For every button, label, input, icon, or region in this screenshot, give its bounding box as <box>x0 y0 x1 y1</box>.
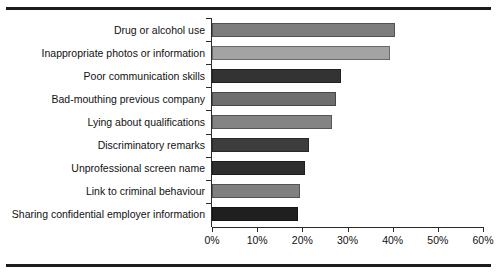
bar <box>212 184 300 198</box>
x-axis-tick <box>393 227 394 232</box>
bar <box>212 92 336 106</box>
y-axis-tick <box>206 64 211 65</box>
bar <box>212 115 332 129</box>
bar <box>212 23 395 37</box>
x-axis-tick-label: 60% <box>463 234 497 246</box>
x-axis-tick <box>438 227 439 232</box>
category-label: Poor communication skills <box>84 69 205 83</box>
x-axis-tick <box>302 227 303 232</box>
bar-chart-figure: Drug or alcohol useInappropriate photos … <box>0 0 497 275</box>
y-axis-tick <box>206 134 211 135</box>
category-axis-labels: Drug or alcohol useInappropriate photos … <box>0 18 209 226</box>
x-axis-tick-label: 10% <box>237 234 277 246</box>
x-axis-tick-label: 20% <box>282 234 322 246</box>
category-label: Bad-mouthing previous company <box>51 92 205 106</box>
top-horizontal-rule <box>6 7 491 10</box>
category-label: Unprofessional screen name <box>71 161 205 175</box>
x-axis-tick <box>257 227 258 232</box>
x-axis-tick-label: 40% <box>373 234 413 246</box>
bar <box>212 46 390 60</box>
plot-area: Drug or alcohol useInappropriate photos … <box>0 18 497 258</box>
bar <box>212 138 309 152</box>
y-axis-tick <box>206 180 211 181</box>
category-label: Link to criminal behaviour <box>86 184 205 198</box>
bar <box>212 69 341 83</box>
y-axis-tick <box>206 18 211 19</box>
x-axis-tick-label: 30% <box>328 234 368 246</box>
y-axis-tick <box>206 110 211 111</box>
category-label: Sharing confidential employer informatio… <box>12 207 205 221</box>
category-label: Lying about qualifications <box>87 115 205 129</box>
x-axis-tick <box>483 227 484 232</box>
category-label: Drug or alcohol use <box>114 23 205 37</box>
y-axis-tick <box>206 87 211 88</box>
y-axis-tick <box>206 203 211 204</box>
y-axis-tick <box>206 41 211 42</box>
x-axis-tick <box>212 227 213 232</box>
bottom-horizontal-rule <box>6 264 491 267</box>
category-label: Discriminatory remarks <box>98 138 205 152</box>
x-axis-tick-label: 0% <box>192 234 232 246</box>
bar <box>212 161 305 175</box>
x-axis-tick-label: 50% <box>418 234 458 246</box>
x-axis-tick <box>348 227 349 232</box>
y-axis-line <box>211 18 212 227</box>
y-axis-tick <box>206 157 211 158</box>
category-label: Inappropriate photos or information <box>42 46 205 60</box>
bar-series <box>212 18 484 226</box>
bar <box>212 207 298 221</box>
